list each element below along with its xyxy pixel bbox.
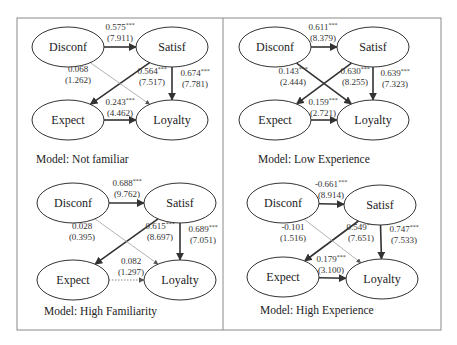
path-t-value: (1.262): [65, 75, 91, 85]
path-t-value: (7.517): [139, 77, 165, 87]
sem-path-diagram: 0.575***(7.911)0.564***(7.517)0.068(1.26…: [0, 0, 457, 345]
path-coefficient: 0.564***: [137, 66, 166, 76]
node-label: Disconf: [49, 40, 87, 54]
node-label: Loyalty: [161, 273, 198, 287]
path-coefficient: 0.688***: [112, 178, 141, 188]
path-t-value: (0.395): [69, 232, 95, 242]
path-t-value: (8.697): [147, 232, 173, 242]
path-t-value: (4.462): [107, 108, 133, 118]
path-coefficient: 0.243***: [105, 97, 134, 107]
node-label: Loyalty: [153, 113, 190, 127]
path-t-value: (8.379): [310, 33, 336, 43]
model-label: Model: Low Experience: [258, 153, 370, 166]
model-label: Model: High Experience: [260, 304, 374, 317]
panels: 0.575***(7.911)0.564***(7.517)0.068(1.26…: [32, 22, 419, 318]
node-label: Expect: [258, 113, 292, 127]
node-label: Satisf: [166, 196, 193, 210]
panel-high-familiarity: 0.688***(9.762)0.615***(8.697)0.028(0.39…: [37, 178, 218, 318]
path-t-value: (7.533): [391, 235, 417, 245]
path-t-value: (7.051): [190, 235, 216, 245]
node-disconf: Disconf: [32, 27, 104, 67]
node-loyalty: Loyalty: [346, 259, 418, 299]
node-label: Disconf: [54, 196, 92, 210]
significance-marker: ***: [209, 224, 218, 230]
significance-marker: ***: [126, 22, 135, 28]
significance-marker: ***: [133, 178, 142, 184]
significance-marker: ***: [338, 179, 347, 185]
node-label: Satisf: [366, 198, 393, 212]
significance-marker: ***: [299, 66, 308, 72]
node-loyalty: Loyalty: [144, 260, 216, 300]
path-t-value: (3.100): [318, 265, 344, 275]
path-t-value: (2.444): [280, 77, 306, 87]
node-label: Disconf: [264, 196, 302, 210]
node-expect: Expect: [32, 100, 104, 140]
path-t-value: (7.781): [182, 79, 208, 89]
path-coefficient: 0.143***: [278, 66, 307, 76]
path-t-value: (1.297): [118, 267, 144, 277]
node-label: Loyalty: [363, 272, 400, 286]
significance-marker: ***: [328, 22, 337, 28]
path-t-value: (8.914): [318, 190, 344, 200]
path-t-value: (9.762): [114, 189, 140, 199]
node-expect: Expect: [247, 257, 319, 297]
node-disconf: Disconf: [239, 27, 311, 67]
significance-marker: ***: [126, 97, 135, 103]
node-satisf: Satisf: [136, 27, 208, 67]
path-arrow-disconf-to-satisf: [319, 204, 344, 205]
node-expect: Expect: [37, 260, 109, 300]
path-coefficient: 0.639***: [380, 68, 409, 78]
path-coefficient: -0.661***: [315, 179, 347, 189]
node-expect: Expect: [239, 100, 311, 140]
panel-high-experience: -0.661***(8.914)0.549***(7.651)-0.101(1.…: [247, 179, 419, 317]
significance-marker: ***: [401, 68, 410, 74]
model-label: Model: Not familiar: [36, 153, 129, 165]
node-loyalty: Loyalty: [337, 100, 409, 140]
node-disconf: Disconf: [37, 183, 109, 223]
path-coefficient: 0.630***: [340, 66, 369, 76]
node-disconf: Disconf: [247, 183, 319, 223]
path-coefficient: 0.575***: [105, 22, 134, 32]
node-satisf: Satisf: [337, 27, 409, 67]
significance-marker: ***: [337, 254, 346, 260]
path-coefficient: 0.159***: [308, 97, 337, 107]
path-t-value: (7.651): [348, 233, 374, 243]
panel-not-familiar: 0.575***(7.911)0.564***(7.517)0.068(1.26…: [32, 22, 210, 165]
node-label: Expect: [266, 270, 300, 284]
path-coefficient: 0.689***: [188, 224, 217, 234]
node-label: Satisf: [359, 40, 386, 54]
path-coefficient: 0.179***: [316, 254, 345, 264]
significance-marker: ***: [201, 68, 210, 74]
significance-marker: ***: [410, 224, 419, 230]
path-coefficient: 0.611***: [309, 22, 338, 32]
node-label: Expect: [56, 273, 90, 287]
path-t-value: (8.255): [342, 77, 368, 87]
node-label: Satisf: [158, 40, 185, 54]
path-arrow-expect-to-loyalty: [319, 278, 346, 279]
model-label: Model: High Familiarity: [44, 305, 157, 318]
path-coefficient: 0.674***: [180, 68, 209, 78]
path-t-value: (7.323): [382, 79, 408, 89]
node-loyalty: Loyalty: [136, 100, 208, 140]
path-coefficient: 0.747***: [389, 224, 418, 234]
node-satisf: Satisf: [144, 183, 216, 223]
path-t-value: (7.911): [107, 33, 133, 43]
significance-marker: ***: [329, 97, 338, 103]
node-label: Expect: [51, 113, 85, 127]
path-t-value: (1.516): [280, 233, 306, 243]
path-t-value: (2.721): [310, 108, 336, 118]
node-label: Loyalty: [354, 113, 391, 127]
node-satisf: Satisf: [344, 185, 416, 225]
path-arrow-satisf-to-loyalty: [381, 225, 382, 259]
path-coefficient: -0.101: [281, 222, 304, 232]
panel-low-experience: 0.611***(8.379)0.630***(8.255)0.143***(2…: [239, 22, 410, 166]
node-label: Disconf: [256, 40, 294, 54]
path-coefficient: 0.082: [121, 256, 141, 266]
